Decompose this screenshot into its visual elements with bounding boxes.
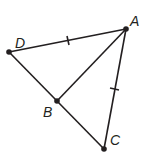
- point-c: [101, 146, 107, 152]
- label-c: C: [110, 132, 121, 148]
- label-a: A: [129, 13, 139, 29]
- point-d: [6, 49, 12, 55]
- point-a: [123, 26, 129, 32]
- point-b: [54, 98, 60, 104]
- tick-mark-da: [67, 36, 69, 45]
- label-d: D: [15, 35, 25, 51]
- geometry-diagram: A D B C: [0, 0, 143, 159]
- tick-mark-ac: [110, 88, 119, 90]
- label-b: B: [43, 104, 52, 120]
